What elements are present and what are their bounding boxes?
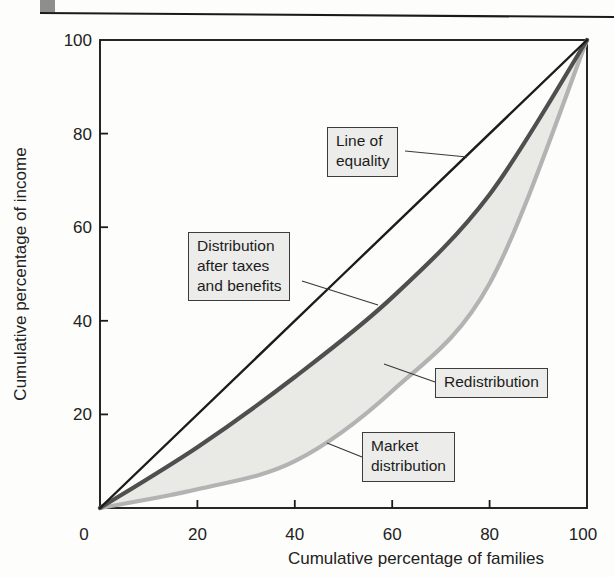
y-tick-label-40: 40 xyxy=(73,312,92,331)
x-tick-label-80: 80 xyxy=(480,525,499,544)
market-distribution-label-box: Market distribution xyxy=(362,432,455,482)
redistribution-label-box: Redistribution xyxy=(435,368,548,398)
lorenz-chart: 02040608010020406080100 Cumulative perce… xyxy=(0,0,614,577)
x-tick-label-0: 0 xyxy=(79,525,88,544)
y-tick-label-20: 20 xyxy=(73,405,92,424)
y-tick-label-60: 60 xyxy=(73,218,92,237)
distribution-after-taxes-label-box: Distribution after taxes and benefits xyxy=(188,232,290,301)
line-of-equality-label-box: Line of equality xyxy=(327,127,398,177)
x-tick-label-40: 40 xyxy=(285,525,304,544)
leader-line-equality xyxy=(405,151,467,157)
x-tick-label-60: 60 xyxy=(383,525,402,544)
curves-group xyxy=(100,40,587,508)
x-tick-label-100: 100 xyxy=(569,525,597,544)
page-top-rule xyxy=(40,13,614,17)
leader-line-market xyxy=(327,443,362,457)
y-tick-label-100: 100 xyxy=(64,31,92,50)
y-tick-label-80: 80 xyxy=(73,125,92,144)
curve-line-of-equality xyxy=(100,40,587,508)
x-tick-label-20: 20 xyxy=(188,525,207,544)
axis-titles-group: Cumulative percentage of familiesCumulat… xyxy=(11,147,544,568)
x-axis-title: Cumulative percentage of families xyxy=(288,549,544,568)
y-axis-title: Cumulative percentage of income xyxy=(11,147,30,400)
page-corner-square xyxy=(40,0,55,12)
figure-page: 02040608010020406080100 Cumulative perce… xyxy=(0,0,614,577)
